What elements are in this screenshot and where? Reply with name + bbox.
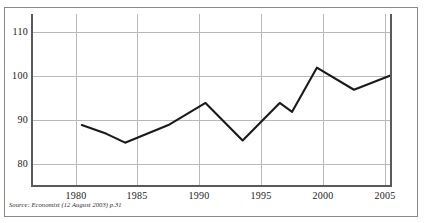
x-tick-label: 2005 [374, 190, 395, 201]
x-axis-line [31, 185, 392, 187]
y-axis-tick-labels: 8090100110 [0, 0, 28, 200]
y-tick-label: 110 [12, 26, 28, 37]
x-tick-label: 1980 [65, 190, 86, 201]
series-polyline [82, 68, 391, 143]
plot-area [31, 14, 391, 186]
data-line-series [62, 28, 422, 200]
x-tick-label: 1985 [126, 190, 147, 201]
x-tick-label: 1990 [188, 190, 209, 201]
y-tick-label: 100 [12, 70, 28, 81]
source-note: Source: Economist (12 August 2003) p.31 [9, 201, 122, 208]
right-axis-line [390, 14, 392, 187]
y-axis-line [31, 14, 33, 187]
figure-container: 8090100110 198019851990199520002005 Sour… [0, 0, 426, 223]
x-tick-label: 1995 [250, 190, 271, 201]
y-tick-label: 80 [17, 158, 28, 169]
y-tick-label: 90 [17, 114, 28, 125]
x-tick-label: 2000 [312, 190, 333, 201]
